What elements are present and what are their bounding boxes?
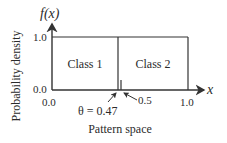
- x-tick-1: 1.0: [180, 96, 194, 108]
- midpoint-label: 0.5: [138, 94, 152, 106]
- midpoint-pointer: [124, 93, 137, 100]
- threshold-label: θ = 0.47: [78, 104, 118, 118]
- y-tick-1: 1.0: [33, 31, 47, 43]
- region-class-1: Class 1: [67, 57, 102, 71]
- x-axis-label: x: [206, 82, 214, 97]
- pdf-diagram: f(x) 1.0 0.0 0.0 1.0 x Class 1 Class 2 θ…: [0, 0, 227, 143]
- region-class-2: Class 2: [135, 57, 170, 71]
- threshold-pointer: [108, 93, 116, 102]
- x-tick-0: 0.0: [42, 96, 56, 108]
- x-axis-title: Pattern space: [88, 122, 152, 136]
- y-tick-0: 0.0: [33, 83, 47, 95]
- y-axis-title: Probability density: [9, 31, 23, 122]
- y-axis-label: f(x): [40, 6, 60, 22]
